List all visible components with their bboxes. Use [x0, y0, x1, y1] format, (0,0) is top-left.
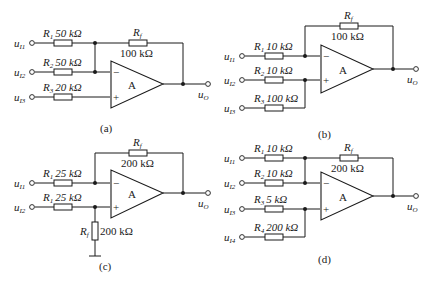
input-label: uI2: [14, 201, 26, 215]
junction-dot: [303, 78, 307, 82]
resistor-label: R3100 kΩ: [253, 92, 298, 106]
junction-dot: [303, 54, 307, 58]
resistor-r1: [265, 53, 283, 59]
junction-dot: [391, 67, 395, 71]
output-label: uO: [198, 88, 209, 102]
resistor-r2: [265, 180, 283, 186]
output-terminal: [414, 194, 419, 199]
resistor-label: R35 kΩ: [253, 193, 287, 207]
resistor-label: R210 kΩ: [253, 64, 293, 78]
ground-resistor-label: Rf: [79, 225, 90, 239]
resistor-label: R125 kΩ: [42, 191, 82, 205]
caption: (c): [99, 260, 112, 273]
output-label: uO: [407, 73, 418, 87]
output-terminal: [414, 67, 419, 72]
plus-sign: +: [113, 201, 119, 213]
input-label: uI2: [14, 66, 26, 80]
amp-label: A: [339, 64, 347, 76]
resistor-rf: [129, 150, 147, 156]
resistor-label: R110 kΩ: [253, 142, 293, 156]
input-label: uI1: [14, 37, 25, 51]
resistor-label: R150 kΩ: [42, 27, 82, 41]
caption: (a): [100, 122, 113, 135]
input-terminal: [30, 41, 35, 46]
resistor-label: R250 kΩ: [42, 56, 82, 70]
output-label: uO: [407, 200, 418, 214]
resistor-label: R110 kΩ: [253, 40, 293, 54]
resistor-r1: [54, 180, 72, 186]
plus-sign: +: [323, 74, 329, 86]
resistor-r3: [265, 105, 283, 111]
input-label: uI1: [224, 50, 235, 64]
minus-sign: −: [323, 50, 329, 62]
input-label: uI1: [224, 152, 235, 166]
amp-label: A: [128, 188, 136, 200]
junction-dot: [93, 181, 97, 185]
input-terminal: [240, 156, 245, 161]
input-label: uI4: [224, 231, 236, 245]
circuit-a: uI1 uI2 uI3 R150 kΩ R250 kΩ R320 kΩ Rf 1…: [14, 26, 210, 135]
output-terminal: [206, 82, 211, 87]
resistor-r4: [265, 234, 283, 240]
junction-dot: [303, 181, 307, 185]
input-terminal: [30, 205, 35, 210]
resistor-r1: [54, 40, 72, 46]
junction-dot: [93, 205, 97, 209]
resistor-r2: [265, 77, 283, 83]
input-label: uI2: [224, 177, 236, 191]
input-terminal: [240, 207, 245, 212]
junction-dot: [391, 194, 395, 198]
feedback-value: 100 kΩ: [120, 47, 153, 59]
resistor-r1b: [54, 204, 72, 210]
junction-dot: [93, 41, 97, 45]
minus-sign: −: [113, 66, 119, 78]
feedback-value: 200 kΩ: [331, 162, 364, 174]
caption: (d): [318, 253, 331, 266]
feedback-label: Rf: [343, 141, 354, 155]
resistor-label: R4200 kΩ: [253, 221, 298, 235]
circuit-c: uI1 uI2 R125 kΩ R125 kΩ Rf 200 kΩ Rf 200…: [14, 136, 210, 273]
input-terminal: [30, 70, 35, 75]
resistor-r3: [265, 206, 283, 212]
input-label: uI1: [14, 177, 25, 191]
feedback-label: Rf: [132, 26, 143, 40]
feedback-label: Rf: [132, 136, 143, 150]
feedback-value: 200 kΩ: [121, 157, 154, 169]
amp-label: A: [128, 79, 136, 91]
circuit-b: uI1 uI2 uI3 R110 kΩ R210 kΩ R3100 kΩ Rf …: [224, 9, 418, 141]
resistor-rf: [129, 40, 147, 46]
plus-sign: +: [113, 91, 119, 103]
ground-resistor-value: 200 kΩ: [100, 225, 133, 237]
input-terminal: [30, 95, 35, 100]
resistor-label: R320 kΩ: [42, 81, 82, 95]
resistor-r3: [54, 94, 72, 100]
feedback-label: Rf: [343, 9, 354, 23]
input-terminal: [240, 181, 245, 186]
resistor-r2: [54, 69, 72, 75]
input-terminal: [30, 181, 35, 186]
resistor-label: R210 kΩ: [253, 167, 293, 181]
input-label: uI3: [224, 102, 236, 116]
resistor-rf: [340, 155, 358, 161]
junction-dot: [93, 70, 97, 74]
junction-dot: [181, 82, 185, 86]
output-label: uO: [198, 197, 209, 211]
input-label: uI2: [224, 74, 236, 88]
input-terminal: [240, 78, 245, 83]
resistor-label: R125 kΩ: [42, 167, 82, 181]
junction-dot: [303, 156, 307, 160]
input-terminal: [240, 106, 245, 111]
junction-dot: [303, 207, 307, 211]
circuit-figure: uI1 uI2 uI3 R150 kΩ R250 kΩ R320 kΩ Rf 1…: [0, 0, 433, 283]
feedback-value: 100 kΩ: [331, 30, 364, 42]
input-terminal: [240, 54, 245, 59]
minus-sign: −: [113, 177, 119, 189]
amp-label: A: [339, 191, 347, 203]
minus-sign: −: [323, 177, 329, 189]
input-label: uI3: [14, 91, 26, 105]
input-terminal: [240, 235, 245, 240]
circuit-d: uI1 uI2 uI3 uI4 R110 kΩ R210 kΩ R35 kΩ R…: [224, 141, 418, 266]
resistor-ground: [92, 222, 98, 240]
input-label: uI3: [224, 203, 236, 217]
resistor-rf: [340, 23, 358, 29]
